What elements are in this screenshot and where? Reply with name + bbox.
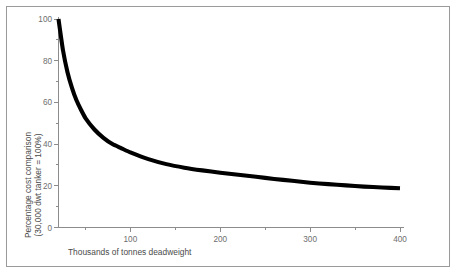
y-axis-title-line1: Percentage cost comparison: [23, 132, 33, 238]
x-tick-label: 200: [213, 235, 227, 244]
axes-group: [59, 17, 405, 228]
y-axis-ticks: [54, 19, 59, 228]
x-tick-label: 400: [393, 235, 407, 244]
cost-curve: [59, 19, 401, 188]
y-tick-label: 60: [43, 98, 53, 107]
x-tick-label: 100: [124, 235, 138, 244]
cost-comparison-chart: 020406080100 100200300400 Thousands of t…: [0, 0, 458, 274]
x-axis-ticks: [85, 228, 400, 233]
y-tick-label: 40: [43, 140, 53, 149]
y-tick-label: 0: [47, 224, 52, 233]
x-axis-title: Thousands of tonnes deadweight: [68, 247, 192, 257]
x-axis-tick-labels: 100200300400: [124, 235, 408, 244]
y-axis-title-line2: (30,000 dwt tanker = 100%): [33, 133, 43, 236]
y-tick-label: 20: [43, 182, 53, 191]
y-tick-label: 80: [43, 57, 53, 66]
x-tick-label: 300: [303, 235, 317, 244]
y-tick-label: 100: [38, 15, 52, 24]
figure-root: 020406080100 100200300400 Thousands of t…: [0, 0, 458, 274]
